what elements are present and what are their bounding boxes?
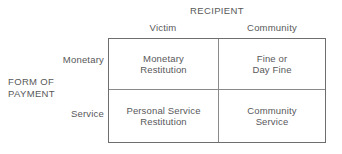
matrix-cell-monetary-community-line2: Day Fine <box>252 64 291 76</box>
matrix-grid: Monetary Restitution Fine or Day Fine Pe… <box>108 38 326 143</box>
matrix-cell-service-community-line1: Community <box>247 105 296 117</box>
matrix-cell-monetary-community-line1: Fine or <box>252 53 291 65</box>
matrix-cell-service-victim-line1: Personal Service <box>126 105 200 117</box>
row-axis-title-line2: PAYMENT <box>8 88 55 100</box>
matrix-cell-service-community-line2: Service <box>247 116 296 128</box>
matrix-cell-monetary-victim-line2: Restitution <box>140 64 187 76</box>
matrix-cell-monetary-community: Fine or Day Fine <box>219 39 325 90</box>
matrix-cell-monetary-victim: Monetary Restitution <box>109 39 219 90</box>
column-header-victim: Victim <box>108 22 218 33</box>
column-header-community: Community <box>218 22 326 33</box>
matrix-cell-service-victim-line2: Restitution <box>126 116 200 128</box>
row-header-monetary: Monetary <box>28 54 104 65</box>
matrix-cell-monetary-victim-line1: Monetary <box>140 53 187 65</box>
row-axis-title: FORM OF PAYMENT <box>8 76 55 99</box>
row-header-service: Service <box>28 108 104 119</box>
matrix-figure: RECIPIENT Victim Community FORM OF PAYME… <box>0 0 342 154</box>
matrix-cell-service-community: Community Service <box>219 90 325 142</box>
column-axis-title: RECIPIENT <box>108 5 326 16</box>
matrix-cell-service-victim: Personal Service Restitution <box>109 90 219 142</box>
row-axis-title-line1: FORM OF <box>8 76 55 88</box>
